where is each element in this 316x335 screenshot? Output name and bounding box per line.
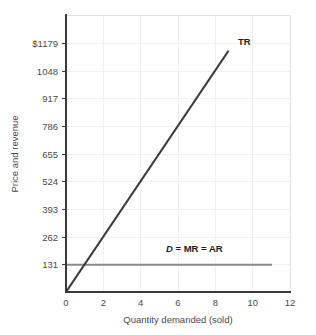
x-tick-label-6: 6 <box>175 297 180 308</box>
x-tick-label-8: 8 <box>213 297 218 308</box>
y-tick-label-1179: $1179 <box>32 38 58 49</box>
revenue-chart: $1179 1048 917 786 655 524 393 262 131 0… <box>0 0 316 335</box>
y-tick-label-1048: 1048 <box>37 66 58 77</box>
series-line-total-revenue <box>66 52 228 293</box>
series-annotation-demand: D = MR = AR <box>166 243 223 254</box>
y-tick-label-655: 655 <box>42 149 58 160</box>
y-tick-label-786: 786 <box>42 121 58 132</box>
x-tick-label-10: 10 <box>247 297 258 308</box>
chart-container: $1179 1048 917 786 655 524 393 262 131 0… <box>0 0 316 335</box>
y-tick-label-262: 262 <box>42 232 58 243</box>
x-axis-title: Quantity demanded (sold) <box>123 314 232 325</box>
y-tick-label-917: 917 <box>42 93 58 104</box>
y-tick-label-524: 524 <box>42 176 58 187</box>
x-tick-label-4: 4 <box>138 297 143 308</box>
x-tick-label-12: 12 <box>285 297 296 308</box>
x-tick-label-2: 2 <box>101 297 106 308</box>
demand-label-rest: = MR = AR <box>173 243 223 254</box>
y-tick-label-131: 131 <box>42 259 58 270</box>
x-tick-label-0: 0 <box>63 297 68 308</box>
series-annotation-tr: TR <box>238 36 251 47</box>
y-axis-title: Price and revenue <box>9 115 20 192</box>
y-tick-label-393: 393 <box>42 204 58 215</box>
